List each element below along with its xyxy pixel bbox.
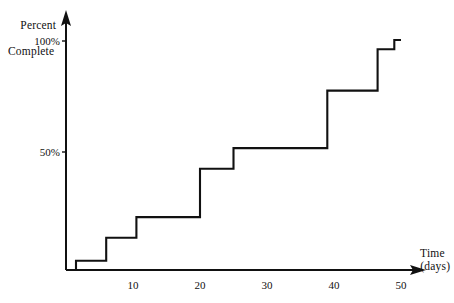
- step-series-line: [66, 40, 401, 270]
- y-axis: [61, 10, 71, 270]
- y-tick-label-50: 50%: [8, 146, 60, 158]
- x-axis-title-units: (days): [420, 260, 450, 272]
- chart-plot-area: [0, 0, 454, 303]
- x-axis-title-line1: Time: [420, 247, 445, 259]
- y-axis-title-line1: Percent: [20, 19, 56, 31]
- x-axis: [66, 265, 426, 275]
- x-tick-label-30: 30: [252, 279, 282, 291]
- x-tick-label-20: 20: [185, 279, 215, 291]
- progress-step-chart: Percent Complete Time (days) 100% 50% 10…: [0, 0, 454, 303]
- x-tick-label-10: 10: [118, 279, 148, 291]
- x-tick-label-50: 50: [386, 279, 416, 291]
- y-tick-label-100: 100%: [8, 35, 60, 47]
- x-tick-label-40: 40: [319, 279, 349, 291]
